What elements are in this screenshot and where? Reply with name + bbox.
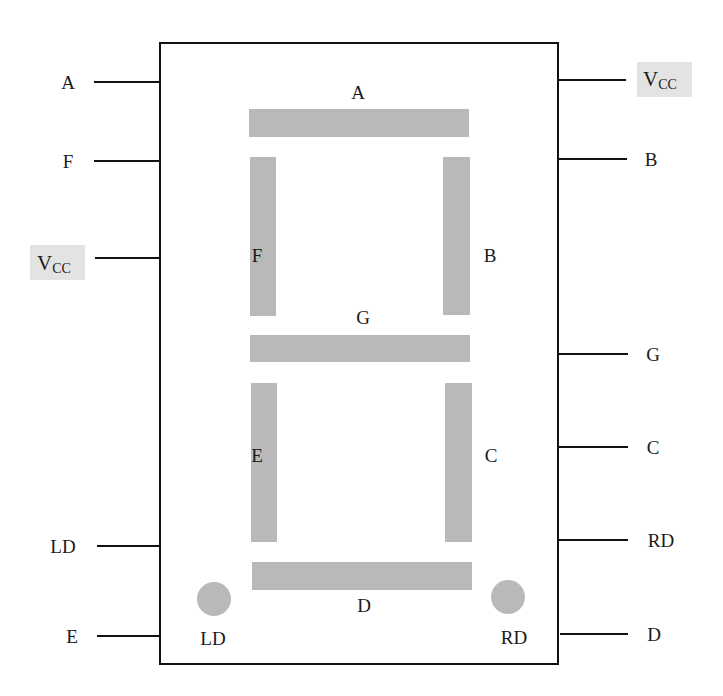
pin-label-left-e: E [66,626,78,647]
vcc-main: V [37,251,52,275]
segment-label-e: E [251,445,263,466]
segment-b [443,157,470,315]
vcc-subscript: CC [658,77,677,92]
vcc-subscript: CC [52,261,71,276]
pin-label-right-d: D [647,624,661,645]
right-pin-labels: VCC B G C RD D [643,67,677,645]
vcc-main: V [643,67,658,91]
segment-label-b: B [484,245,497,266]
left-pin-labels: A F VCC LD E [37,72,78,647]
pin-label-right-b: B [645,149,658,170]
decimal-point-ld [197,582,231,616]
segment-label-c: C [485,445,498,466]
pin-label-right-c: C [647,437,660,458]
segments [197,109,525,616]
segment-label-f: F [252,245,263,266]
pin-label-left-a: A [61,72,75,93]
segment-label-d: D [357,595,371,616]
segment-c [445,383,472,542]
segment-label-rd: RD [501,627,527,648]
segment-label-g: G [356,307,370,328]
segment-g [250,335,470,362]
segment-a [249,109,469,137]
segment-d [252,562,472,590]
pin-label-right-g: G [646,344,660,365]
segment-f [250,157,276,316]
left-pins [94,82,160,636]
right-pins [558,80,628,634]
pin-label-left-f: F [63,151,74,172]
segment-label-a: A [351,82,365,103]
pin-label-left-ld: LD [50,536,75,557]
pin-label-right-rd: RD [648,530,674,551]
seven-segment-display-diagram: A F B G E C D LD RD A F VCC LD E [0,0,723,696]
decimal-point-rd [491,580,525,614]
segment-label-ld: LD [200,628,225,649]
